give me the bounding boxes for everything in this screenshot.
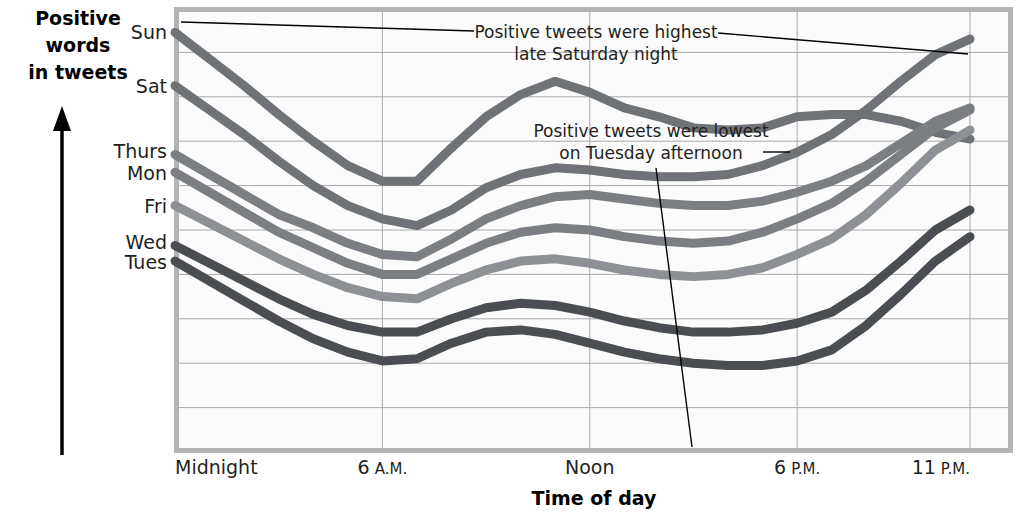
up-arrow-icon bbox=[53, 106, 71, 455]
x-tick-labels: Midnight6A.M.Noon6P.M.11P.M. bbox=[175, 456, 970, 478]
y-tick-label-sat: Sat bbox=[136, 75, 167, 97]
y-axis-title-line-1: Positive bbox=[35, 7, 121, 29]
y-tick-label-mon: Mon bbox=[127, 162, 167, 184]
x-tick-label-main: 6A.M. bbox=[358, 456, 408, 478]
x-tick-label-main: 11P.M. bbox=[912, 456, 970, 478]
line-chart: SunSatThursMonFriWedTues Midnight6A.M.No… bbox=[0, 0, 1019, 519]
y-tick-label-tues: Tues bbox=[124, 251, 167, 273]
x-tick-label-main: 6P.M. bbox=[774, 456, 820, 478]
y-tick-label-sun: Sun bbox=[131, 21, 167, 43]
x-tick-label-suffix: P.M. bbox=[791, 460, 820, 478]
x-tick-label-group: 6A.M. bbox=[358, 456, 408, 478]
y-tick-label-wed: Wed bbox=[126, 231, 167, 253]
x-tick-label-group: 6P.M. bbox=[774, 456, 820, 478]
y-axis-title: Positive words in tweets bbox=[28, 7, 127, 455]
x-tick-label-main: Noon bbox=[565, 456, 615, 478]
x-tick-label-main: Midnight bbox=[175, 456, 258, 478]
annotation-lowest-line-1: Positive tweets were lowest bbox=[533, 121, 769, 141]
chart-page: SunSatThursMonFriWedTues Midnight6A.M.No… bbox=[0, 0, 1019, 519]
y-tick-labels: SunSatThursMonFriWedTues bbox=[113, 21, 167, 273]
y-axis-title-line-2: words bbox=[46, 34, 111, 56]
x-tick-label-group: Noon bbox=[565, 456, 615, 478]
y-tick-label-thurs: Thurs bbox=[113, 140, 167, 162]
x-tick-label-suffix: A.M. bbox=[375, 460, 407, 478]
x-tick-label-group: 11P.M. bbox=[912, 456, 970, 478]
annotation-lowest-line-2: on Tuesday afternoon bbox=[559, 143, 742, 163]
y-axis-title-line-3: in tweets bbox=[28, 61, 127, 83]
annotation-highest-line-2: late Saturday night bbox=[514, 44, 678, 64]
y-tick-label-fri: Fri bbox=[144, 195, 167, 217]
x-tick-label-suffix: P.M. bbox=[941, 460, 970, 478]
x-axis-title: Time of day bbox=[532, 487, 658, 509]
x-tick-label-group: Midnight bbox=[175, 456, 258, 478]
annotation-highest-line-1: Positive tweets were highest bbox=[474, 22, 718, 42]
